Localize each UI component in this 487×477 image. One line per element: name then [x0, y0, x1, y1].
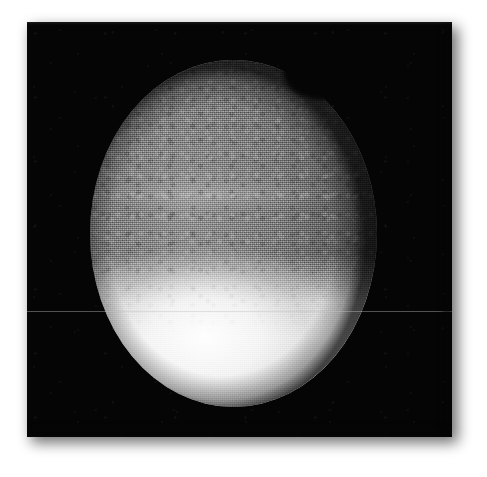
horizontal-scan-line: [27, 311, 452, 312]
plate-edge-top: [27, 22, 452, 25]
plate-edge-right: [444, 22, 452, 437]
planetary-disk: [90, 60, 377, 407]
disk-surface: [90, 60, 377, 407]
plate-edge-bottom: [27, 430, 452, 437]
photographic-plate: [27, 22, 452, 437]
figure-page: [0, 0, 487, 477]
limb-darkening: [90, 60, 377, 407]
figure-caption: [0, 0, 1, 1]
